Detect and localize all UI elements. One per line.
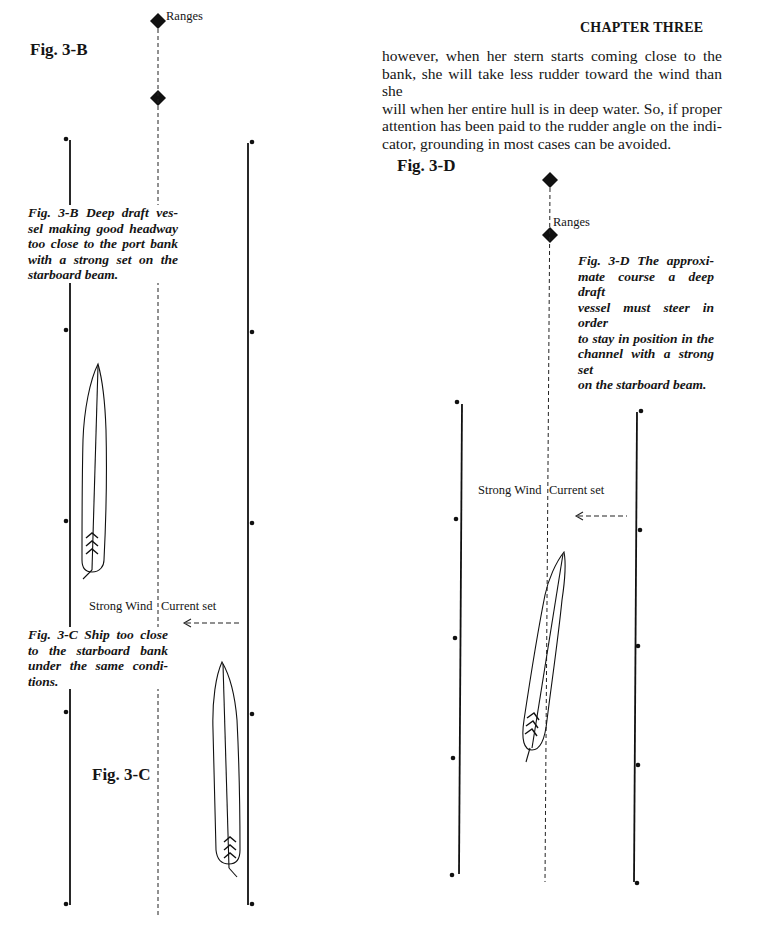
port-bank-line — [459, 404, 462, 874]
fig-3d-ranges-label: Ranges — [553, 215, 590, 230]
caption-line: under the same condi- — [28, 658, 168, 674]
range-marker-front — [542, 172, 558, 188]
range-line — [545, 188, 550, 882]
body-line: will when her entire hull is in deep wat… — [382, 100, 722, 118]
fig-3d-wind-label: Strong Wind — [478, 483, 542, 498]
fig-3b-ranges-label: Ranges — [166, 9, 203, 24]
caption-line: Fig. 3-D The approxi- — [578, 253, 714, 269]
ship-fig-3b — [82, 364, 106, 579]
caption-line: on the starboard beam. — [578, 377, 714, 393]
body-line: attention has been paid to the rudder an… — [382, 117, 722, 135]
caption-line: too close to the port bank — [28, 236, 178, 252]
fig-3c-label: Fig. 3-C — [92, 765, 151, 785]
chapter-heading: CHAPTER THREE — [580, 20, 703, 36]
caption-line: Fig. 3-B Deep draft ves- — [28, 205, 178, 221]
caption-line: to stay in position in the — [578, 331, 714, 347]
body-line: bank, she will take less rudder toward t… — [382, 65, 722, 100]
caption-line: tions. — [28, 674, 168, 690]
starboard-buoys — [250, 140, 255, 907]
current-set-arrow — [576, 512, 627, 520]
caption-line: with a strong set on the — [28, 252, 178, 268]
caption-line: sel making good headway — [28, 221, 178, 237]
caption-line: to the starboard bank — [28, 643, 168, 659]
fig-3d-caption: Fig. 3-D The approxi- mate course a deep… — [578, 253, 714, 393]
ship-fig-3d — [523, 552, 565, 762]
fig-3c-caption: Fig. 3-C Ship too close to the starboard… — [28, 627, 168, 689]
fig-3d-current-label: Current set — [549, 483, 604, 498]
body-paragraph: however, when her stern starts coming cl… — [382, 47, 722, 152]
caption-line: channel with a strong set — [578, 346, 714, 377]
port-buoys — [450, 400, 460, 878]
range-marker-front — [150, 13, 166, 29]
caption-line: starboard beam. — [28, 267, 178, 283]
fig-3b-label: Fig. 3-B — [30, 40, 88, 60]
body-line: however, when her stern starts coming cl… — [382, 47, 722, 65]
current-set-arrow — [184, 619, 240, 627]
caption-line: vessel must steer in order — [578, 300, 714, 331]
ship-fig-3c — [213, 662, 240, 877]
caption-line: Fig. 3-C Ship too close — [28, 627, 168, 643]
fig-3c-wind-label: Strong Wind — [89, 599, 153, 614]
fig-3c-current-label: Current set — [161, 599, 216, 614]
caption-line: mate course a deep draft — [578, 269, 714, 300]
fig-3b-caption: Fig. 3-B Deep draft ves- sel making good… — [28, 205, 178, 283]
body-line: cator, grounding in most cases can be av… — [382, 135, 722, 153]
fig-3d-label: Fig. 3-D — [397, 156, 456, 176]
